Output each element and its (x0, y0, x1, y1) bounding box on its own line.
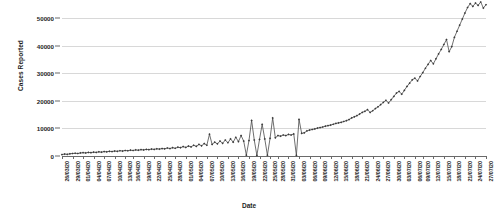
data-point-marker (158, 148, 160, 150)
data-point-marker (324, 125, 326, 127)
data-point-marker (82, 152, 84, 154)
x-tick-label: 29/03/20 (75, 161, 81, 182)
data-point-marker (124, 149, 126, 151)
x-tick-label: 09/06/20 (322, 161, 328, 182)
x-tick-mark (331, 156, 332, 159)
x-tick-mark (444, 156, 445, 159)
x-tick-label: 03/06/20 (301, 161, 307, 182)
x-tick-mark (73, 156, 74, 159)
x-tick-mark (310, 156, 311, 159)
y-axis-ticks: 01000020000300004000050000 (0, 18, 62, 156)
y-tick-label: 0 (51, 153, 54, 160)
x-tick-mark (278, 156, 279, 159)
data-point-marker (174, 147, 176, 149)
x-tick-label: 16/05/20 (240, 161, 246, 182)
x-tick-mark (299, 156, 300, 159)
x-tick-label: 01/04/20 (85, 161, 91, 182)
data-point-marker (314, 128, 316, 130)
data-point-marker (287, 133, 289, 135)
x-tick-label: 09/07/20 (425, 161, 431, 182)
data-point-marker (282, 134, 284, 136)
x-tick-mark (260, 156, 261, 159)
x-tick-label: 13/05/20 (230, 161, 236, 182)
x-tick-label: 10/05/20 (219, 161, 225, 182)
x-tick-mark (341, 156, 342, 159)
data-point-marker (79, 152, 81, 154)
x-tick-label: 03/07/20 (406, 161, 412, 182)
x-tick-mark (352, 156, 353, 159)
data-point-marker (208, 133, 210, 135)
data-point-marker (69, 153, 71, 155)
x-tick-mark (415, 156, 416, 159)
x-tick-mark (144, 156, 145, 159)
data-point-marker (293, 133, 295, 135)
x-tick-mark (133, 156, 134, 159)
data-point-marker (93, 151, 95, 153)
data-point-marker (148, 149, 150, 151)
y-tick-mark (55, 156, 60, 157)
data-point-marker (137, 149, 139, 151)
x-tick-mark (228, 156, 229, 159)
data-point-marker (95, 151, 97, 153)
x-tick-label: 01/05/20 (188, 161, 194, 182)
x-tick-label: 27/06/20 (385, 161, 391, 182)
x-tick-label: 30/06/20 (396, 161, 402, 182)
x-tick-label: 19/04/20 (146, 161, 152, 182)
x-tick-label: 15/07/20 (446, 161, 452, 182)
x-tick-label: 12/06/20 (333, 161, 339, 182)
data-point-marker (330, 124, 332, 126)
x-tick-label: 10/04/20 (117, 161, 123, 182)
x-tick-label: 22/05/20 (262, 161, 268, 182)
data-point-marker (264, 138, 266, 140)
data-point-marker (258, 138, 260, 140)
data-point-marker (114, 150, 116, 152)
x-tick-mark (207, 156, 208, 159)
data-point-marker (87, 151, 89, 153)
x-tick-mark (94, 156, 95, 159)
data-point-marker (132, 149, 134, 151)
x-tick-mark (238, 156, 239, 159)
x-tick-label: 06/07/20 (417, 161, 423, 182)
data-point-marker (335, 122, 337, 124)
y-tick-mark (55, 18, 60, 19)
data-point-marker (322, 126, 324, 128)
data-point-marker (272, 117, 274, 119)
data-point-marker (182, 146, 184, 148)
data-point-marker (327, 125, 329, 127)
x-tick-mark (288, 156, 289, 159)
data-point-marker (164, 148, 166, 150)
data-point-marker (129, 149, 131, 151)
x-tick-label: 06/06/20 (312, 161, 318, 182)
data-point-marker (269, 137, 271, 139)
x-axis-ticks: 26/03/2029/03/2001/04/2004/04/2007/04/20… (62, 156, 486, 202)
data-point-marker (332, 123, 334, 125)
data-point-marker (179, 147, 181, 149)
data-point-marker (64, 153, 66, 155)
x-tick-label: 25/04/20 (167, 161, 173, 182)
x-tick-mark (83, 156, 84, 159)
series-markers (61, 1, 487, 157)
data-point-marker (248, 139, 250, 141)
x-tick-label: 12/07/20 (435, 161, 441, 182)
y-tick-mark (55, 73, 60, 74)
x-tick-mark (362, 156, 363, 159)
x-tick-mark (465, 156, 466, 159)
data-point-marker (345, 120, 347, 122)
data-point-marker (111, 150, 113, 152)
x-tick-mark (486, 156, 487, 159)
x-tick-mark (383, 156, 384, 159)
y-tick-label: 10000 (37, 125, 54, 132)
x-tick-label: 24/06/20 (375, 161, 381, 182)
series-line-cases-reported (62, 2, 486, 155)
data-point-marker (251, 119, 253, 121)
data-point-marker (85, 152, 87, 154)
plot-area (62, 18, 486, 156)
data-point-marker (156, 148, 158, 150)
x-tick-label: 22/04/20 (156, 161, 162, 182)
data-point-marker (316, 127, 318, 129)
data-point-marker (135, 149, 137, 151)
data-point-marker (290, 134, 292, 136)
x-tick-mark (404, 156, 405, 159)
data-point-marker (301, 132, 303, 134)
data-point-marker (103, 150, 105, 152)
